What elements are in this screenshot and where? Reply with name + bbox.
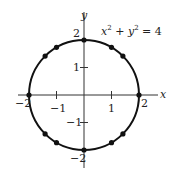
data-point: [54, 140, 59, 145]
data-point: [120, 54, 125, 59]
ytick-label-neg2: −2: [70, 153, 86, 164]
data-point: [109, 45, 114, 50]
eq-exp-1: 2: [107, 24, 111, 32]
equation-annotation: x2 + y2 = 4: [101, 24, 162, 38]
data-point: [43, 54, 48, 59]
xtick-label-neg1: −1: [50, 103, 66, 114]
xtick-label-neg2: −2: [15, 98, 31, 109]
eq-plus: +: [115, 25, 124, 38]
xtick-label-1: 1: [108, 103, 115, 114]
xtick-label-2: 2: [141, 98, 148, 109]
x-axis-label: x: [160, 89, 166, 100]
data-point: [43, 131, 48, 136]
eq-rhs: = 4: [142, 25, 162, 38]
ytick-label-1: 1: [73, 62, 80, 73]
data-point: [81, 37, 86, 42]
eq-exp-2: 2: [134, 24, 138, 32]
ytick-label-2: 2: [73, 28, 80, 39]
data-point: [109, 140, 114, 145]
data-point: [54, 45, 59, 50]
y-axis-label: y: [81, 10, 87, 21]
ytick-label-neg1: −1: [66, 117, 82, 128]
data-point: [120, 131, 125, 136]
